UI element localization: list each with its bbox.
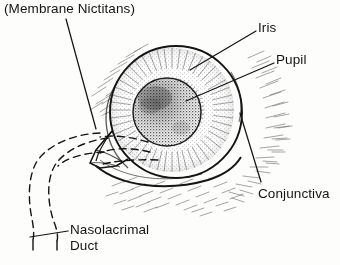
membrane-nictitans-leader bbox=[66, 19, 96, 129]
eye-anatomy-drawing bbox=[0, 0, 340, 265]
label-iris: Iris bbox=[258, 20, 276, 36]
label-conjunctiva: Conjunctiva bbox=[258, 186, 330, 202]
nasolacrimal-duct-leader bbox=[30, 231, 68, 237]
conjunctiva-leader bbox=[240, 113, 261, 182]
eye-anatomy-figure: (Membrane Nictitans) Iris Pupil Conjunct… bbox=[0, 0, 340, 265]
label-nasolacrimal-duct: Nasolacrimal Duct bbox=[70, 222, 149, 253]
label-pupil: Pupil bbox=[276, 52, 307, 68]
label-membrane-nictitans: (Membrane Nictitans) bbox=[4, 1, 135, 17]
pupil bbox=[133, 78, 201, 146]
nasolacrimal-duct-tip bbox=[33, 240, 57, 250]
